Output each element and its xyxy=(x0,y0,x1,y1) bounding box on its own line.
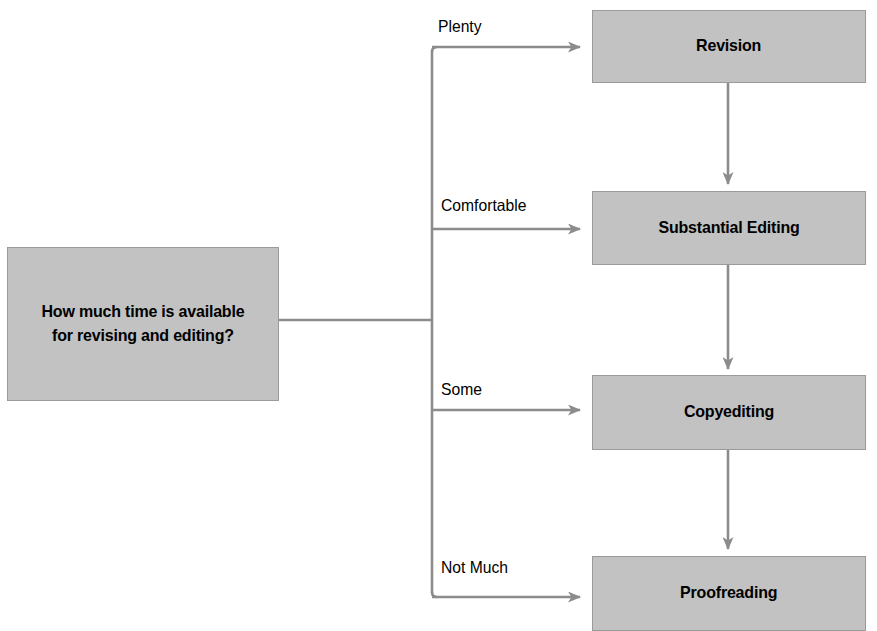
edge-label-some: Some xyxy=(441,380,482,399)
stage-node-label: Revision xyxy=(696,34,761,58)
decision-node-time-available[interactable]: How much time is available for revising … xyxy=(7,247,279,401)
stage-node-proofreading[interactable]: Proofreading xyxy=(592,556,866,631)
edge-label-comfortable: Comfortable xyxy=(441,196,526,215)
stage-node-label: Proofreading xyxy=(680,581,777,605)
stage-node-substantial-editing[interactable]: Substantial Editing xyxy=(592,191,866,265)
edge-label-not-much: Not Much xyxy=(441,558,508,577)
stage-node-copyediting[interactable]: Copyediting xyxy=(592,375,866,450)
stage-node-label: Copyediting xyxy=(684,400,774,424)
stage-node-revision[interactable]: Revision xyxy=(592,10,866,83)
edge-label-plenty: Plenty xyxy=(438,17,482,36)
flowchart-canvas: How much time is available for revising … xyxy=(0,0,877,631)
connector-trunk-top-corner xyxy=(432,47,437,52)
decision-node-label: How much time is available for revising … xyxy=(42,300,245,348)
connector-trunk-bottom-corner xyxy=(432,592,437,597)
stage-node-label: Substantial Editing xyxy=(658,216,799,240)
